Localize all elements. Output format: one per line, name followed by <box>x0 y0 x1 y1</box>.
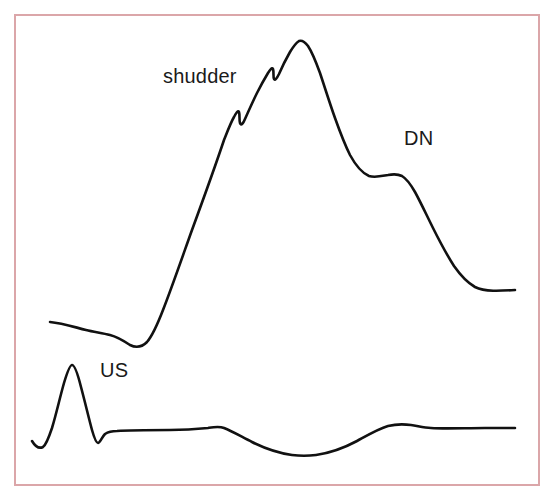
figure-root: shudder DN US <box>0 0 555 499</box>
dicrotic-notch-label: DN <box>404 128 433 148</box>
arterial-pressure-trace <box>50 41 515 347</box>
shudder-label: shudder <box>163 66 237 86</box>
upstroke-label: US <box>100 360 128 380</box>
waveform-svg <box>0 0 555 499</box>
